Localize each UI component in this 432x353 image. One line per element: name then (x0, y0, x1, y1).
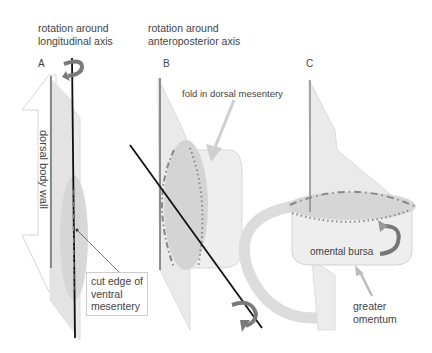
pointer-arrow-icon (355, 265, 364, 276)
label-greater-omentum-line2: omentum (353, 313, 397, 325)
panel-b-drawing (130, 78, 262, 332)
callout-cut-edge-line1: cut edge of (91, 275, 143, 288)
panel-c-drawing (244, 80, 416, 330)
label-dorsal-body-wall: dorsal body wall (38, 130, 50, 209)
callout-cut-edge: cut edge of ventral mesentery (86, 272, 148, 316)
label-fold-dorsal-mesentery: fold in dorsal mesentery (182, 88, 283, 100)
callout-cut-edge-line3: mesentery (91, 300, 143, 313)
label-omental-bursa: omental bursa (310, 246, 373, 258)
callout-cut-edge-line2: ventral (91, 288, 143, 301)
label-greater-omentum-line1: greater (353, 300, 386, 312)
